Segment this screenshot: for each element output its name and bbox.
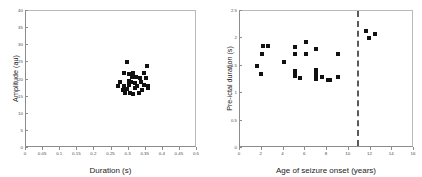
y-tick (239, 10, 242, 11)
y-tick (25, 147, 28, 148)
data-point (122, 71, 126, 75)
data-point (320, 75, 324, 79)
x-tick-label: 0.15 (72, 151, 81, 156)
plot-area-right (239, 10, 413, 147)
x-tick (413, 147, 414, 150)
y-tick (25, 44, 28, 45)
x-tick (283, 147, 284, 150)
y-tick (25, 10, 28, 11)
y-tick (25, 27, 28, 28)
x-tick (391, 147, 392, 150)
x-tick (162, 147, 163, 150)
x-tick-label: 0.1 (56, 151, 62, 156)
x-tick-label: 10 (345, 151, 350, 156)
x-tick-label: 12 (367, 151, 372, 156)
y-tick (25, 113, 28, 114)
x-axis-title-right: Age of seizure onset (years) (239, 166, 413, 175)
x-tick (42, 147, 43, 150)
data-point (116, 84, 120, 88)
y-tick (25, 61, 28, 62)
x-tick (304, 147, 305, 150)
y-tick (25, 130, 28, 131)
x-tick (111, 147, 112, 150)
data-point (314, 47, 318, 51)
data-point (123, 91, 127, 95)
x-tick-label: 14 (389, 151, 394, 156)
data-point (259, 72, 263, 76)
x-tick-label: 0.2 (90, 151, 96, 156)
x-tick-label: 0.05 (38, 151, 47, 156)
data-point (364, 29, 368, 33)
panel-right-age-preictal: 024681012141600.511.522.5 Age of seizure… (211, 0, 422, 177)
panel-left-duration-amplitude: 00.050.10.150.20.250.30.350.40.450.50510… (0, 0, 211, 177)
data-point (336, 52, 340, 56)
vertical-reference-line (357, 11, 359, 146)
y-tick (239, 65, 242, 66)
x-tick-label: 0.25 (106, 151, 115, 156)
x-tick (326, 147, 327, 150)
data-point (145, 64, 149, 68)
data-point (125, 60, 129, 64)
data-point (373, 32, 377, 36)
x-tick-label: 4 (281, 151, 283, 156)
x-tick-label: 0.35 (140, 151, 149, 156)
x-tick (370, 147, 371, 150)
data-point (293, 52, 297, 56)
data-point (304, 40, 308, 44)
x-tick (179, 147, 180, 150)
x-tick (145, 147, 146, 150)
x-tick-label: 0.5 (193, 151, 199, 156)
data-point (255, 64, 259, 68)
x-tick-label: 0 (24, 151, 26, 156)
data-point (293, 45, 297, 49)
plot-area-left (25, 10, 196, 147)
data-point (282, 60, 286, 64)
data-point (260, 52, 264, 56)
data-point (137, 91, 141, 95)
data-point (304, 52, 308, 56)
y-tick (239, 92, 242, 93)
x-tick (93, 147, 94, 150)
data-point (367, 36, 371, 40)
x-tick (196, 147, 197, 150)
x-tick (59, 147, 60, 150)
data-point (142, 71, 146, 75)
x-tick-label: 0.3 (125, 151, 131, 156)
y-tick (25, 79, 28, 80)
data-point (146, 86, 150, 90)
x-tick-label: 16 (411, 151, 416, 156)
x-tick-label: 0.45 (175, 151, 184, 156)
y-tick (239, 120, 242, 121)
x-tick-label: 6 (303, 151, 305, 156)
x-tick (348, 147, 349, 150)
x-tick-label: 0 (238, 151, 240, 156)
x-tick (76, 147, 77, 150)
y-tick (239, 37, 242, 38)
y-axis-title-right: Pre-ictal duration (s) (225, 10, 234, 147)
x-tick (128, 147, 129, 150)
data-point (314, 77, 318, 81)
figure-scatter-pair: 00.050.10.150.20.250.30.350.40.450.50510… (0, 0, 422, 177)
data-point (266, 44, 270, 48)
y-axis-title-left: Amplitude (au) (11, 10, 20, 147)
x-axis-title-left: Duration (s) (25, 166, 196, 175)
x-tick-label: 2 (260, 151, 262, 156)
y-tick (25, 96, 28, 97)
data-point (298, 76, 302, 80)
x-tick-label: 8 (325, 151, 327, 156)
y-tick (239, 147, 242, 148)
x-tick-label: 0.4 (159, 151, 165, 156)
data-point (328, 78, 332, 82)
x-tick (261, 147, 262, 150)
data-point (144, 76, 148, 80)
data-point (293, 74, 297, 78)
data-point (133, 86, 137, 90)
data-point (131, 92, 135, 96)
data-point (336, 75, 340, 79)
